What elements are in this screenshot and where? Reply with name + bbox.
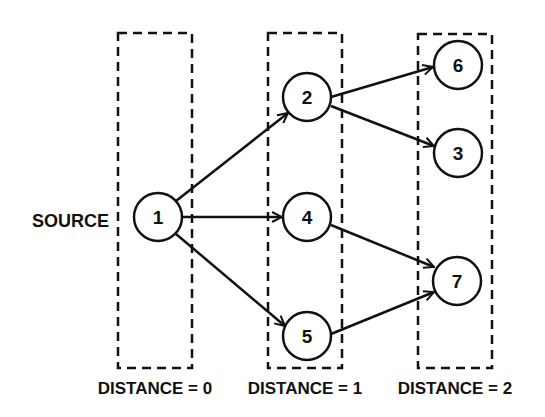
node-6: 6	[434, 41, 482, 89]
svg-text:1: 1	[153, 207, 164, 228]
layer-label-distance-1: DISTANCE = 1	[248, 379, 362, 398]
svg-text:4: 4	[302, 207, 313, 228]
node-7: 7	[433, 257, 481, 305]
svg-text:6: 6	[453, 55, 464, 76]
svg-text:5: 5	[302, 326, 313, 347]
source-label: SOURCE	[32, 211, 109, 231]
layer-label-distance-2: DISTANCE = 2	[398, 379, 512, 398]
node-5: 5	[283, 312, 331, 360]
svg-text:7: 7	[452, 271, 463, 292]
layer-label-distance-0: DISTANCE = 0	[98, 379, 212, 398]
bfs-diagram: 1 2 4 5 6 3 7 SOURCE DISTANCE = 0 DISTAN…	[0, 0, 545, 417]
node-4: 4	[283, 193, 331, 241]
node-2: 2	[283, 73, 331, 121]
edge-5-7	[331, 292, 434, 334]
svg-text:2: 2	[302, 87, 313, 108]
node-1: 1	[134, 193, 182, 241]
svg-text:3: 3	[453, 143, 464, 164]
node-3: 3	[434, 129, 482, 177]
